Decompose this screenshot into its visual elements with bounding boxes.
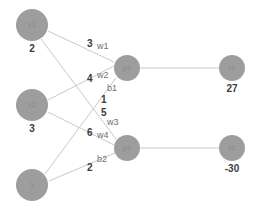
node-label-t2: t2	[229, 144, 236, 152]
node-bias[interactable]: 1	[16, 169, 48, 201]
edge-x1-to-y2	[41, 39, 116, 139]
edge-symbol-w3: w3	[107, 118, 119, 127]
edge-symbol-b1: b1	[107, 84, 117, 93]
edge-value-w3: 5	[101, 108, 107, 118]
node-label-x2: x2	[28, 101, 36, 109]
node-y1[interactable]: y1	[114, 55, 140, 81]
neural-network-diagram: x12x231y1y2t127t2-30 3w14w21b15w36w42b2	[0, 0, 261, 213]
node-value-t2: -30	[218, 164, 246, 174]
node-label-y2: y2	[123, 144, 131, 152]
node-label-t1: t1	[229, 64, 236, 72]
edge-symbol-w4: w4	[97, 131, 109, 140]
node-label-bias: 1	[30, 181, 34, 189]
node-x2[interactable]: x2	[16, 89, 48, 121]
edge-value-w1: 3	[87, 39, 93, 49]
edge-symbol-w1: w1	[97, 42, 109, 51]
node-t2[interactable]: t2	[219, 135, 245, 161]
edge-value-w2: 4	[87, 74, 93, 84]
node-label-x1: x1	[28, 21, 36, 29]
node-y2[interactable]: y2	[114, 135, 140, 161]
node-t1[interactable]: t1	[219, 55, 245, 81]
node-value-x2: 3	[18, 124, 46, 134]
edge-value-b2: 2	[87, 163, 93, 173]
edge-symbol-w2: w2	[97, 71, 109, 80]
edge-symbol-b2: b2	[97, 155, 107, 164]
edge-value-w4: 6	[87, 128, 93, 138]
node-value-x1: 2	[18, 44, 46, 54]
edge-value-b1: 1	[101, 95, 107, 105]
node-value-t1: 27	[218, 84, 246, 94]
node-label-y1: y1	[123, 64, 131, 72]
node-x1[interactable]: x1	[16, 9, 48, 41]
